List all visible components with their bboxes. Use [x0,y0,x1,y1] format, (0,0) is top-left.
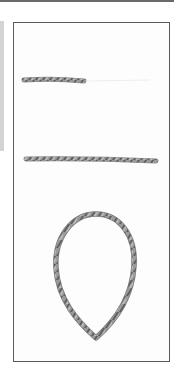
long-twisted-cord [26,159,156,161]
cord-loop [56,214,134,338]
cord-illustration [0,0,183,368]
short-twisted-cord [24,79,150,81]
